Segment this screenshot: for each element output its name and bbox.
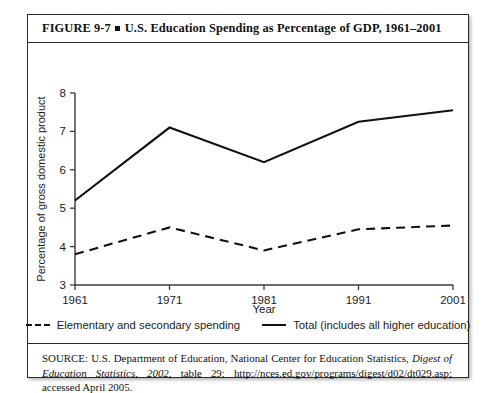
x-tick-label: 2001 bbox=[440, 294, 466, 306]
series-line-elementary bbox=[75, 226, 453, 255]
y-tick-label: 7 bbox=[60, 126, 66, 138]
figure-box: FIGURE 9-7U.S. Education Spending as Per… bbox=[27, 14, 469, 378]
figure-number: FIGURE 9-7 bbox=[42, 21, 111, 35]
figure-title-text: U.S. Education Spending as Percentage of… bbox=[125, 21, 442, 35]
legend-label-elementary: Elementary and secondary spending bbox=[57, 319, 240, 331]
legend-item-total: Total (includes all higher education) bbox=[262, 319, 470, 331]
figure-title-bar: FIGURE 9-7U.S. Education Spending as Per… bbox=[28, 15, 468, 42]
square-bullet-icon bbox=[115, 26, 120, 31]
y-tick-label: 6 bbox=[60, 164, 66, 176]
y-tick-label: 4 bbox=[60, 241, 67, 253]
plot-area: 345678 19611971198119912001 Year Percent… bbox=[28, 43, 468, 315]
axes bbox=[75, 93, 453, 285]
x-tick-label: 1961 bbox=[62, 294, 88, 306]
x-tick-label: 1971 bbox=[157, 294, 183, 306]
x-axis-ticks bbox=[75, 285, 453, 290]
y-tick-label: 3 bbox=[60, 279, 66, 291]
x-tick-label: 1991 bbox=[346, 294, 372, 306]
source-prefix: SOURCE: U.S. Department of Education, Na… bbox=[42, 352, 412, 364]
y-axis-ticks bbox=[70, 93, 75, 285]
source-note: SOURCE: U.S. Department of Education, Na… bbox=[28, 344, 468, 393]
y-tick-label: 5 bbox=[60, 202, 66, 214]
chart-legend: Elementary and secondary spending Total … bbox=[28, 313, 468, 337]
dashed-line-swatch-icon bbox=[26, 324, 50, 326]
solid-line-swatch-icon bbox=[262, 324, 286, 326]
line-chart: 345678 19611971198119912001 Year Percent… bbox=[28, 43, 468, 315]
y-axis-title: Percentage of gross domestic product bbox=[35, 97, 47, 282]
legend-item-elementary: Elementary and secondary spending bbox=[26, 319, 240, 331]
legend-label-total: Total (includes all higher education) bbox=[293, 319, 470, 331]
y-axis-tick-labels: 345678 bbox=[60, 87, 67, 291]
y-tick-label: 8 bbox=[60, 87, 66, 99]
series-line-total bbox=[75, 111, 453, 201]
